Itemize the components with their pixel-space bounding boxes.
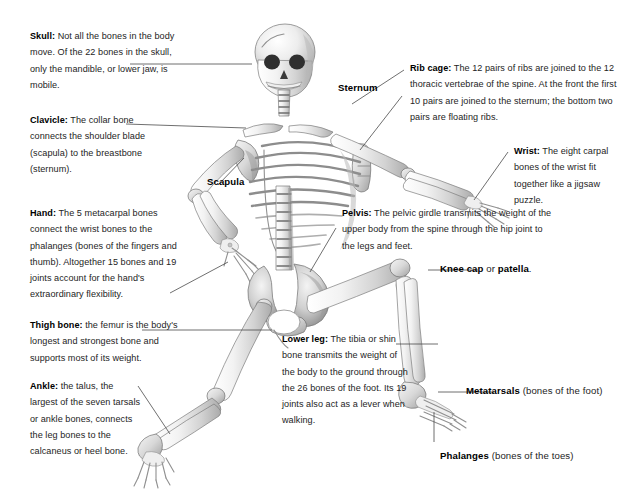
callout-lower-leg-term: Lower leg: bbox=[282, 334, 328, 344]
tag-phalanges-label: Phalanges bbox=[440, 450, 489, 461]
tag-phalanges: Phalanges (bones of the toes) bbox=[440, 450, 574, 461]
callout-hand: Hand: The 5 metacarpal bones connect the… bbox=[30, 205, 182, 303]
callout-thigh-bone-term: Thigh bone: bbox=[30, 320, 83, 330]
tag-knee-cap-alt: patella bbox=[498, 263, 529, 274]
tag-scapula: Scapula bbox=[207, 176, 245, 187]
callout-pelvis-text: The pelvic girdle transmits the weight o… bbox=[342, 208, 551, 251]
tag-knee-cap-label: Knee cap bbox=[440, 263, 483, 274]
callout-wrist: Wrist: The eight carpal bones of the wri… bbox=[514, 143, 620, 208]
spine-bone bbox=[276, 186, 294, 270]
anatomy-diagram-page: Skull: Not all the bones in the body mov… bbox=[0, 0, 632, 493]
tag-metatarsals-label: Metatarsals bbox=[466, 385, 520, 396]
callout-rib-cage: Rib cage: The 12 pairs of ribs are joine… bbox=[410, 60, 624, 125]
tag-sternum-label: Sternum bbox=[338, 82, 378, 93]
tag-sternum: Sternum bbox=[338, 82, 378, 93]
callout-clavicle: Clavicle: The collar bone connects the s… bbox=[30, 112, 160, 177]
callout-skull-term: Skull: bbox=[30, 31, 55, 41]
callout-ankle: Ankle: the talus, the largest of the sev… bbox=[30, 378, 142, 459]
tag-knee-cap: Knee cap or patella. bbox=[440, 263, 532, 274]
callout-wrist-term: Wrist: bbox=[514, 146, 540, 156]
tag-metatarsals-note: (bones of the foot) bbox=[520, 385, 603, 396]
callout-clavicle-term: Clavicle: bbox=[30, 115, 68, 125]
tag-scapula-label: Scapula bbox=[207, 176, 245, 187]
callout-pelvis-term: Pelvis: bbox=[342, 208, 372, 218]
tag-knee-cap-suffix: . bbox=[529, 263, 532, 274]
callout-hand-term: Hand: bbox=[30, 208, 56, 218]
callout-skull: Skull: Not all the bones in the body mov… bbox=[30, 28, 182, 93]
callout-rib-cage-term: Rib cage: bbox=[410, 63, 451, 73]
cervical-spine bbox=[278, 90, 290, 116]
tag-knee-cap-connector: or bbox=[483, 263, 497, 274]
callout-lower-leg-text: The tibia or shin bone transmits the wei… bbox=[282, 334, 408, 425]
callout-hand-text: The 5 metacarpal bones connect the wrist… bbox=[30, 208, 177, 299]
skull-bone bbox=[255, 24, 315, 97]
callout-pelvis: Pelvis: The pelvic girdle transmits the … bbox=[342, 205, 554, 254]
callout-lower-leg: Lower leg: The tibia or shin bone transm… bbox=[282, 331, 410, 429]
tag-phalanges-note: (bones of the toes) bbox=[489, 450, 574, 461]
callout-ankle-text: the talus, the largest of the seven tars… bbox=[30, 381, 140, 456]
clavicle-bone bbox=[243, 124, 333, 137]
callout-thigh-bone: Thigh bone: the femur is the body's long… bbox=[30, 317, 190, 366]
callout-ankle-term: Ankle: bbox=[30, 381, 58, 391]
tag-metatarsals: Metatarsals (bones of the foot) bbox=[466, 385, 602, 396]
